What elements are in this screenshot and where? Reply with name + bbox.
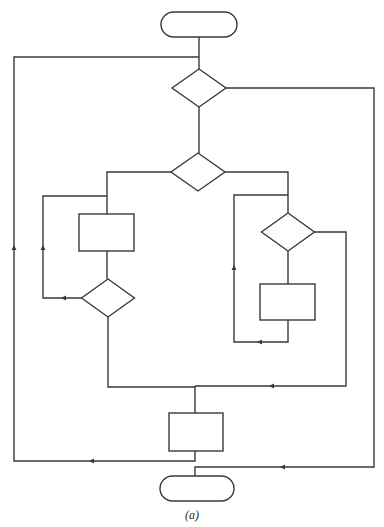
- decision-decision-1: [172, 69, 226, 107]
- arrowhead-left-icon: [89, 459, 94, 464]
- edge-dleft-to-merge: [108, 317, 195, 387]
- arrowhead-up-icon: [12, 245, 17, 250]
- flowchart-nodes: [79, 12, 315, 501]
- arrowhead-up-icon: [232, 265, 237, 270]
- flowchart-arrows: [12, 245, 286, 470]
- arrowhead-left-icon: [280, 465, 285, 470]
- decision-decision-2: [171, 153, 225, 191]
- decision-decision-right: [262, 213, 315, 251]
- arrowhead-left-icon: [61, 296, 66, 301]
- process-process-left: [79, 214, 134, 251]
- arrowhead-left-icon: [257, 340, 262, 345]
- edge-d2-left-branch: [107, 172, 171, 214]
- figure-caption: (a): [0, 508, 384, 523]
- arrowhead-left-icon: [269, 384, 274, 389]
- process-process-bottom: [169, 413, 223, 451]
- arrowhead-up-icon: [41, 245, 46, 250]
- terminator-end: [160, 476, 234, 501]
- process-process-right: [260, 284, 315, 320]
- decision-decision-left: [82, 279, 135, 317]
- terminator-start: [161, 12, 237, 37]
- flowchart-canvas: [0, 0, 384, 527]
